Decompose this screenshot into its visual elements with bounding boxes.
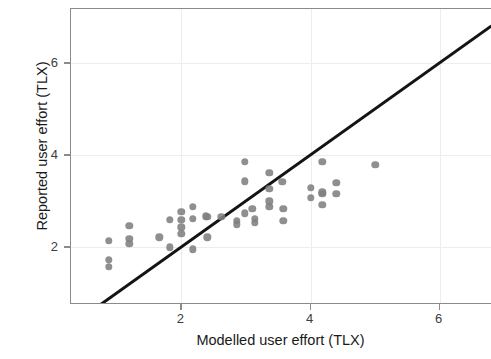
y-axis-tick: [64, 154, 70, 155]
plot-panel: [70, 8, 491, 304]
data-point: [318, 190, 325, 197]
data-point: [241, 158, 248, 165]
data-point: [241, 177, 248, 184]
y-axis-tick-label: 2: [0, 239, 58, 254]
data-point: [166, 216, 173, 223]
data-point: [318, 158, 325, 165]
data-point: [251, 219, 258, 226]
scatter-plot-figure: Reported user effort (TLX) 246246 Modell…: [0, 0, 491, 359]
data-point: [204, 213, 211, 220]
data-point: [249, 205, 256, 212]
data-point: [189, 215, 196, 222]
gridline-horizontal: [71, 155, 491, 156]
data-point: [333, 179, 340, 186]
identity-reference-line: [97, 25, 491, 304]
data-point: [125, 240, 132, 247]
data-point: [278, 178, 285, 185]
data-point: [333, 190, 340, 197]
x-axis-tick-label: 2: [177, 311, 184, 326]
data-point: [280, 217, 287, 224]
data-point: [280, 205, 287, 212]
data-point: [156, 234, 163, 241]
data-point: [266, 203, 273, 210]
data-point: [178, 230, 185, 237]
gridline-horizontal: [71, 63, 491, 64]
data-point: [266, 169, 273, 176]
data-point: [266, 185, 273, 192]
data-point: [241, 210, 248, 217]
data-point: [125, 222, 132, 229]
data-point: [105, 237, 112, 244]
x-axis-title: Modelled user effort (TLX): [70, 332, 491, 348]
x-axis-tick-label: 4: [306, 311, 313, 326]
x-axis-tick-label: 6: [435, 311, 442, 326]
data-point: [189, 246, 196, 253]
data-point: [307, 184, 314, 191]
data-point: [178, 208, 185, 215]
data-point: [233, 221, 240, 228]
x-axis-tick: [310, 304, 311, 310]
y-axis-tick: [64, 62, 70, 63]
y-axis-tick: [64, 246, 70, 247]
data-point: [218, 213, 225, 220]
data-point: [371, 161, 378, 168]
y-axis-tick-label: 6: [0, 55, 58, 70]
x-axis-tick: [180, 304, 181, 310]
x-axis-tick: [439, 304, 440, 310]
data-point: [204, 234, 211, 241]
gridline-horizontal: [71, 247, 491, 248]
y-axis-tick-label: 4: [0, 147, 58, 162]
data-point: [105, 263, 112, 270]
data-point: [307, 194, 314, 201]
data-point: [189, 203, 196, 210]
data-point: [318, 201, 325, 208]
data-point: [178, 216, 185, 223]
